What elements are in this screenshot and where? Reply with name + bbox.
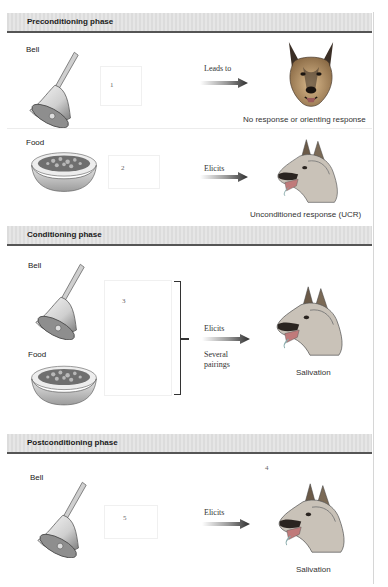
- phase-title: Preconditioning phase: [27, 17, 113, 26]
- right-arrow-icon: [200, 172, 248, 182]
- step-number-4: 4: [265, 464, 269, 472]
- arrow-label-elicits: Elicits: [204, 508, 224, 517]
- step-number-2: 2: [121, 164, 125, 172]
- response-caption-salivation: Salivation: [296, 565, 331, 574]
- right-arrow-icon: [202, 334, 250, 344]
- step-number-1: 1: [110, 81, 114, 89]
- number-box-2: [108, 155, 160, 189]
- food-bowl-icon: [28, 145, 100, 200]
- pairing-bracket: [174, 281, 181, 395]
- number-box-5: [104, 505, 158, 539]
- phase-title: Postconditioning phase: [27, 438, 118, 447]
- response-caption-1: No response or orienting response: [243, 115, 366, 124]
- number-box-3: [104, 280, 172, 396]
- step-number-3: 3: [122, 297, 126, 305]
- dog-head-salivating-icon: [272, 138, 344, 204]
- bracket-tick: [181, 338, 189, 340]
- right-arrow-icon: [202, 519, 250, 529]
- bell-icon: [32, 262, 90, 340]
- dog-head-salivating-icon: [274, 285, 346, 357]
- dog-head-front-icon: [280, 38, 342, 110]
- row-divider: [7, 128, 372, 129]
- preconditioning-phase-header: Preconditioning phase: [7, 13, 372, 33]
- food-bowl-icon: [28, 358, 100, 414]
- conditioning-phase-header: Conditioning phase: [7, 226, 372, 246]
- arrow-label-leads-to: Leads to: [204, 64, 231, 73]
- dog-head-salivating-icon: [276, 482, 348, 554]
- bell-icon: [34, 480, 92, 558]
- response-caption-2: Unconditioned response (UCR): [250, 210, 361, 219]
- right-arrow-icon: [200, 78, 248, 88]
- arrow-label-several-pairings: Several pairings: [204, 350, 244, 370]
- bell-icon: [26, 50, 84, 128]
- response-caption-salivation: Salivation: [296, 368, 331, 377]
- step-number-5: 5: [123, 514, 127, 522]
- phase-title: Conditioning phase: [27, 230, 102, 239]
- arrow-label-elicits: Elicits: [204, 324, 224, 333]
- postconditioning-phase-header: Postconditioning phase: [7, 434, 372, 454]
- number-box-1: [100, 66, 142, 106]
